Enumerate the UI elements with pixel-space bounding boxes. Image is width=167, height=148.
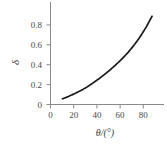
ytick-label-4: 0.8 (14, 20, 42, 29)
xtick-label-1: 20 (69, 111, 78, 120)
xtick-label-0: 0 (48, 111, 53, 120)
xtick-label-2: 40 (92, 111, 101, 120)
y-tick-marks (47, 25, 51, 105)
chart-figure: 0 0.2 0.4 0.6 0.8 0 20 40 60 80 θ/(°) δ (0, 0, 167, 148)
xtick-label-4: 80 (139, 111, 148, 120)
data-curve (62, 16, 152, 99)
ytick-label-0: 0 (14, 100, 42, 109)
y-axis-title: δ (10, 60, 21, 65)
xtick-label-3: 60 (116, 111, 125, 120)
ytick-label-1: 0.2 (14, 80, 42, 89)
x-tick-marks (51, 105, 144, 109)
x-axis-title: θ/(°) (96, 128, 114, 138)
ytick-label-3: 0.6 (14, 40, 42, 49)
